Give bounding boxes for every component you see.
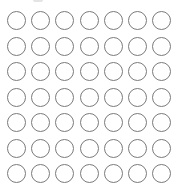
circle-cell-icon[interactable] [104,88,123,107]
circle-cell-icon[interactable] [80,62,99,81]
circle-cell-icon[interactable] [128,62,147,81]
circle-cell-icon[interactable] [31,88,50,107]
circle-cell-icon[interactable] [152,62,171,81]
cropped-top-element [33,0,43,2]
circle-cell-icon[interactable] [31,164,50,183]
circle-cell-icon[interactable] [128,113,147,132]
circle-cell-icon[interactable] [31,11,50,30]
circle-cell-icon[interactable] [152,139,171,158]
circle-cell-icon[interactable] [128,88,147,107]
circle-cell-icon[interactable] [128,164,147,183]
circle-cell-icon[interactable] [31,139,50,158]
circle-cell-icon[interactable] [31,37,50,56]
circle-cell-icon[interactable] [128,37,147,56]
circle-cell-icon[interactable] [104,37,123,56]
circle-cell-icon[interactable] [80,113,99,132]
circle-cell-icon[interactable] [80,164,99,183]
circle-cell-icon[interactable] [104,113,123,132]
circle-cell-icon[interactable] [55,62,74,81]
circle-cell-icon[interactable] [104,139,123,158]
circle-cell-icon[interactable] [55,164,74,183]
circle-cell-icon[interactable] [31,113,50,132]
circle-cell-icon[interactable] [55,88,74,107]
circle-cell-icon[interactable] [152,37,171,56]
circle-cell-icon[interactable] [128,11,147,30]
circle-cell-icon[interactable] [80,88,99,107]
circle-grid [7,11,176,190]
circle-cell-icon[interactable] [152,113,171,132]
circle-cell-icon[interactable] [55,113,74,132]
circle-cell-icon[interactable] [7,139,26,158]
circle-cell-icon[interactable] [80,139,99,158]
circle-cell-icon[interactable] [55,11,74,30]
circle-cell-icon[interactable] [7,113,26,132]
circle-cell-icon[interactable] [7,62,26,81]
circle-cell-icon[interactable] [104,62,123,81]
circle-cell-icon[interactable] [31,62,50,81]
circle-cell-icon[interactable] [152,11,171,30]
circle-cell-icon[interactable] [55,37,74,56]
circle-cell-icon[interactable] [128,139,147,158]
circle-cell-icon[interactable] [152,88,171,107]
circle-cell-icon[interactable] [7,11,26,30]
circle-cell-icon[interactable] [152,164,171,183]
circle-cell-icon[interactable] [80,37,99,56]
circle-cell-icon[interactable] [104,11,123,30]
circle-cell-icon[interactable] [7,164,26,183]
circle-cell-icon[interactable] [7,88,26,107]
circle-cell-icon[interactable] [55,139,74,158]
circle-cell-icon[interactable] [7,37,26,56]
circle-cell-icon[interactable] [104,164,123,183]
circle-cell-icon[interactable] [80,11,99,30]
